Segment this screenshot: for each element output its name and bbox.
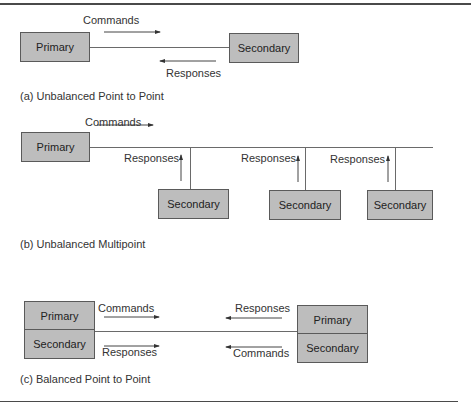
secondary-cell-right: Secondary <box>298 334 367 362</box>
caption-b: (b) Unbalanced Multipoint <box>20 238 145 250</box>
secondary-label-c-left: Secondary <box>33 338 86 350</box>
link-line-a <box>90 47 230 48</box>
drop-line-b2 <box>305 147 306 190</box>
primary-cell-right: Primary <box>298 306 367 334</box>
caption-a: (a) Unbalanced Point to Point <box>20 90 164 102</box>
primary-label-b: Primary <box>37 141 75 153</box>
primary-label-c-left: Primary <box>41 310 79 322</box>
secondary-station-b1: Secondary <box>158 189 229 219</box>
caption-c: (c) Balanced Point to Point <box>20 373 150 385</box>
commands-label-b: Commands <box>85 116 141 128</box>
secondary-label-c-right: Secondary <box>306 342 359 354</box>
responses-label-b3: Responses <box>330 153 385 165</box>
responses-label-b1: Responses <box>124 152 179 164</box>
secondary-station-b3: Secondary <box>367 190 433 220</box>
secondary-label-b1: Secondary <box>167 198 220 210</box>
responses-label-c-left: Responses <box>102 346 157 358</box>
drop-line-b3 <box>395 147 396 190</box>
secondary-station-a: Secondary <box>229 33 299 63</box>
primary-label-c-right: Primary <box>314 314 352 326</box>
bus-line-b <box>90 147 433 148</box>
drop-line-b1 <box>190 147 191 189</box>
combined-station-right: Primary Secondary <box>297 305 368 363</box>
secondary-label-b2: Secondary <box>279 199 332 211</box>
commands-label-c-right: Commands <box>233 347 289 359</box>
responses-label-c-right: Responses <box>235 302 290 314</box>
secondary-label-b3: Secondary <box>374 199 427 211</box>
responses-label-a: Responses <box>166 67 221 79</box>
combined-station-left: Primary Secondary <box>24 301 95 359</box>
secondary-cell-left: Secondary <box>25 330 94 358</box>
responses-label-b2: Responses <box>241 152 296 164</box>
commands-label-a: Commands <box>83 14 139 26</box>
primary-label-a: Primary <box>36 41 74 53</box>
secondary-station-b2: Secondary <box>269 190 341 220</box>
link-line-c <box>94 331 297 332</box>
primary-cell-left: Primary <box>25 302 94 330</box>
primary-station-a: Primary <box>20 32 90 62</box>
commands-label-c-left: Commands <box>98 302 154 314</box>
secondary-label-a: Secondary <box>238 42 291 54</box>
primary-station-b: Primary <box>21 132 90 162</box>
